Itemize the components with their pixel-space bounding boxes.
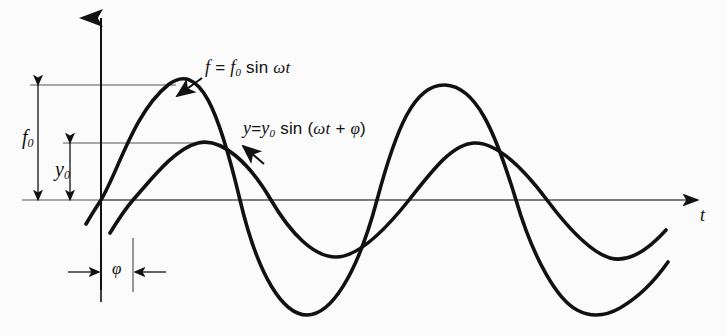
phase-marker-label: φ — [112, 259, 121, 279]
equation-f-equals: = — [215, 58, 225, 77]
diagram-canvas — [0, 0, 726, 336]
equation-f-lhs: f — [205, 57, 210, 77]
leader-line-y — [243, 146, 264, 164]
equation-y-phase: φ — [351, 119, 361, 138]
equation-f-amplitude-sub: 0 — [235, 66, 241, 78]
amplitude-label-y0-sub: 0 — [64, 168, 70, 182]
equation-y-lhs: y — [243, 118, 251, 138]
amplitude-label-f0-sub: 0 — [28, 136, 34, 150]
t-axis-label: t — [700, 205, 705, 226]
equation-y-equals: = — [251, 119, 261, 138]
equation-y-plus: + — [335, 119, 345, 138]
equation-f-argument: ωt — [273, 58, 290, 77]
equation-y-argument: ωt — [313, 119, 330, 138]
equation-label-y: y=y0 sin (ωt + φ) — [243, 118, 366, 139]
equation-y-func: sin — [280, 119, 302, 138]
curve-f — [86, 79, 668, 315]
equation-f-func: sin — [246, 58, 268, 77]
equation-y-amplitude-sub: 0 — [270, 127, 276, 139]
amplitude-label-y0: y0 — [55, 158, 70, 183]
waveform-diagram: f = f0 sin ωt y=y0 sin (ωt + φ) t f0 y0 … — [0, 0, 726, 336]
amplitude-label-f0: f0 — [22, 126, 34, 151]
equation-label-f: f = f0 sin ωt — [205, 57, 290, 78]
equation-y-close-paren: ) — [360, 119, 366, 138]
equation-y-amplitude: y — [261, 118, 269, 138]
amplitude-label-y0-symbol: y — [55, 158, 64, 180]
